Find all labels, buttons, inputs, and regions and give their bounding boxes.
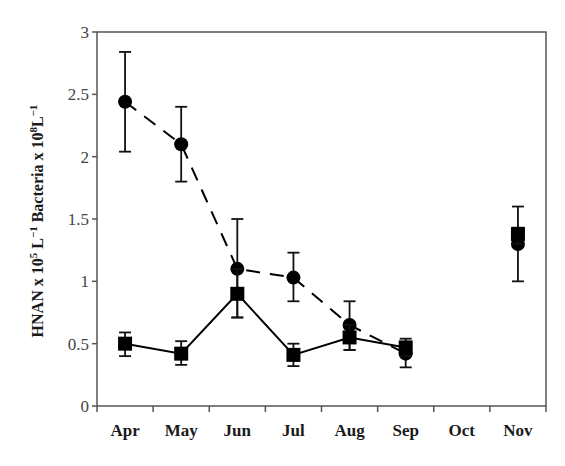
- square-marker: [399, 340, 413, 354]
- x-tick-label: Apr: [110, 421, 140, 440]
- y-tick-label: 3: [81, 23, 90, 42]
- plot-axes: 00.511.522.53AprMayJunJulAugSepOctNov: [68, 23, 546, 440]
- x-tick-label: May: [165, 421, 199, 440]
- y-tick-label: 2: [81, 148, 90, 167]
- line-chart: 00.511.522.53AprMayJunJulAugSepOctNov HN…: [0, 0, 565, 466]
- y-axis-label: HNAN x 105 L−1 Bacteria x 108L−1: [27, 105, 46, 338]
- y-tick-label: 2.5: [68, 85, 89, 104]
- square-marker: [286, 348, 300, 362]
- y-tick-label: 1.5: [68, 210, 89, 229]
- square-marker: [118, 337, 132, 351]
- x-tick-label: Oct: [449, 421, 476, 440]
- square-marker: [230, 287, 244, 301]
- x-tick-label: Sep: [392, 421, 418, 440]
- series-square: [118, 227, 525, 366]
- x-tick-label: Aug: [334, 421, 365, 440]
- series-line: [125, 102, 406, 354]
- circle-marker: [118, 95, 132, 109]
- square-marker: [174, 347, 188, 361]
- plot-series: [118, 52, 525, 367]
- square-marker: [511, 227, 525, 241]
- y-tick-label: 0: [81, 397, 90, 416]
- x-tick-label: Jun: [224, 421, 252, 440]
- series-line: [125, 294, 406, 355]
- circle-marker: [174, 137, 188, 151]
- y-tick-label: 1: [81, 272, 90, 291]
- x-tick-label: Jul: [282, 421, 305, 440]
- circle-marker: [286, 271, 300, 285]
- y-tick-label: 0.5: [68, 335, 89, 354]
- series-circle: [118, 52, 525, 367]
- square-marker: [343, 330, 357, 344]
- x-tick-label: Nov: [503, 421, 533, 440]
